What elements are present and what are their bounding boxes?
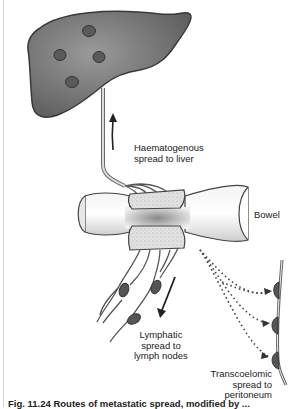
label-haematogenous: Haematogenous spread to liver	[134, 143, 204, 164]
lymph-nodes	[117, 279, 163, 327]
lymph-node	[126, 312, 143, 327]
arrow-up-icon	[109, 113, 117, 150]
label-transcoelomic: Transcoelomic spread to peritoneum	[200, 369, 272, 401]
label-lymphatic: Lymphatic spread to lymph nodes	[134, 330, 188, 362]
transcoelomic-arrowheads	[261, 288, 272, 359]
liver-metastasis	[93, 52, 105, 63]
liver	[28, 11, 191, 117]
lymph-node	[149, 279, 163, 295]
tumour-lower	[129, 226, 185, 250]
peritoneum	[272, 260, 286, 385]
label-bowel: Bowel	[254, 210, 280, 221]
liver-metastasis	[66, 77, 79, 88]
peritoneal-deposit	[274, 282, 279, 299]
figure-caption: Fig. 11.24 Routes of metastatic spread, …	[8, 398, 250, 409]
transcoelomic-paths	[200, 250, 270, 356]
liver-metastasis	[54, 50, 66, 61]
peritoneal-deposit	[272, 317, 278, 334]
bowel	[78, 185, 248, 250]
tumour-upper	[129, 190, 185, 209]
liver-metastasis	[83, 26, 96, 37]
lymphatic-vessels	[97, 248, 178, 342]
peritoneal-deposit	[272, 352, 279, 369]
